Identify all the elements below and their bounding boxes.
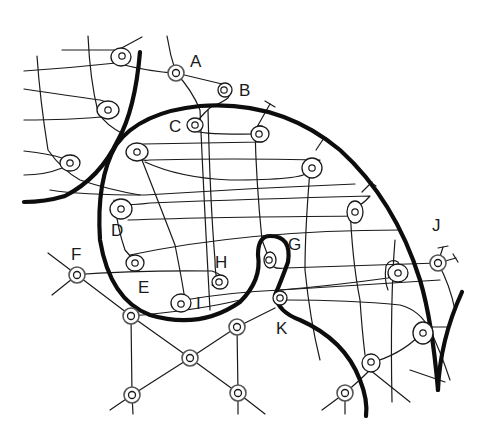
label-H: H — [215, 253, 227, 272]
loop-K — [273, 291, 287, 305]
boundary-left-crossing — [24, 52, 140, 202]
boundary-right-branch — [438, 292, 462, 390]
fiber-network-diagram: A B C D E F G H I J K — [0, 0, 483, 440]
label-A: A — [190, 52, 202, 71]
loop-E — [126, 255, 144, 271]
loop-B — [218, 83, 232, 97]
ringed-nodes — [69, 65, 446, 403]
loop-inner-2 — [251, 126, 269, 142]
loop-right-1 — [388, 264, 408, 282]
label-B: B — [239, 81, 250, 100]
label-E: E — [138, 278, 149, 297]
label-G: G — [288, 235, 301, 254]
node-lower-1 — [123, 308, 139, 324]
loop-G — [264, 252, 276, 268]
node-F — [69, 267, 85, 283]
loop-H — [212, 275, 228, 289]
label-D: D — [111, 221, 123, 240]
node-J — [430, 255, 446, 271]
loop-inner-3 — [302, 158, 322, 178]
label-C: C — [169, 117, 181, 136]
loop-inner-4 — [347, 201, 363, 223]
node-A — [168, 65, 184, 81]
label-I: I — [196, 294, 201, 313]
label-K: K — [276, 319, 288, 338]
thick-boundaries — [24, 52, 462, 416]
loop-inner-1 — [126, 143, 148, 161]
node-lower-5 — [230, 385, 246, 401]
label-J: J — [432, 216, 441, 235]
loop-D — [110, 199, 132, 219]
label-F: F — [71, 245, 81, 264]
boundary-main-arc — [116, 105, 438, 390]
node-lower-6 — [337, 385, 353, 401]
node-lower-3 — [229, 319, 245, 335]
loop-left — [60, 155, 80, 171]
loop-right-3 — [362, 354, 380, 372]
node-lower-4 — [124, 387, 140, 403]
loop-upper-left — [97, 101, 119, 119]
node-lower-2 — [182, 350, 198, 366]
loop-top-left — [111, 48, 131, 66]
loop-I — [171, 294, 191, 312]
loop-C — [187, 118, 203, 132]
loop-right-2 — [413, 322, 433, 344]
